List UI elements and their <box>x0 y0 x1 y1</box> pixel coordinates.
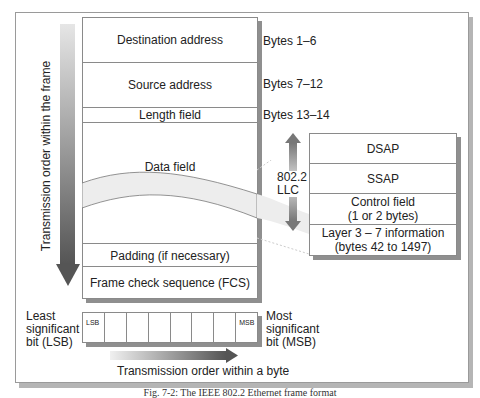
bit-cell <box>214 313 236 342</box>
bit-cell: MSB <box>236 313 257 342</box>
bit-cell <box>127 313 149 342</box>
row-dsap: DSAP <box>310 134 456 164</box>
llc-header: DSAP SSAP Control field (1 or 2 bytes) L… <box>309 133 457 256</box>
bytes-source: Bytes 7–12 <box>263 77 323 91</box>
row-length-field: Length field <box>83 108 257 123</box>
bytes-destination: Bytes 1–6 <box>263 34 316 48</box>
llc-label-line2: LLC <box>277 184 307 197</box>
bit-cell <box>192 313 214 342</box>
row-fcs: Frame check sequence (FCS) <box>83 267 257 298</box>
row-source-address: Source address <box>83 63 257 108</box>
row-layer-info: Layer 3 – 7 information (bytes 42 to 149… <box>310 225 456 255</box>
figure-caption: Fig. 7-2: The IEEE 802.2 Ethernet frame … <box>0 387 480 398</box>
bit-cell: LSB <box>83 313 105 342</box>
llc-label: 802.2 LLC <box>277 171 307 197</box>
vertical-arrow-icon <box>56 24 84 288</box>
frame-order-label: Transmission order within the frame <box>39 26 53 286</box>
bit-cell <box>105 313 127 342</box>
layer-info-range: (bytes 42 to 1497) <box>335 240 432 254</box>
msb-label-line3: bit (MSB) <box>266 336 319 349</box>
layer-info-title: Layer 3 – 7 information <box>322 226 445 240</box>
bytes-length: Bytes 13–14 <box>263 108 330 122</box>
msb-label: Most significant bit (MSB) <box>266 310 319 349</box>
row-destination-address: Destination address <box>83 18 257 63</box>
bit-cell <box>149 313 171 342</box>
lsb-label-line3: bit (LSB) <box>26 336 79 349</box>
horizontal-arrow-icon <box>110 348 240 364</box>
control-field-title: Control field <box>351 195 415 209</box>
byte-bits: LSB MSB <box>82 312 258 343</box>
lsb-label: Least significant bit (LSB) <box>26 310 79 349</box>
control-field-size: (1 or 2 bytes) <box>348 209 419 223</box>
byte-order-label: Transmission order within a byte <box>117 365 289 378</box>
bit-cell <box>171 313 193 342</box>
row-ssap: SSAP <box>310 164 456 194</box>
row-control-field: Control field (1 or 2 bytes) <box>310 194 456 225</box>
